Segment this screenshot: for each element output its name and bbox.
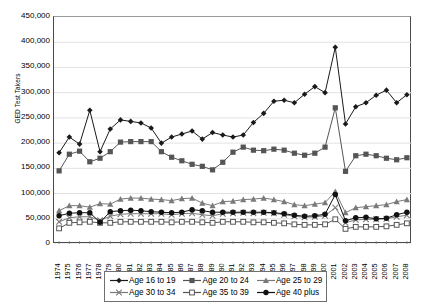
x-axis-tick-label: 2004 <box>361 263 368 279</box>
data-point-marker <box>148 209 153 214</box>
data-point-marker <box>200 164 205 169</box>
data-point-marker <box>87 108 93 114</box>
data-point-marker <box>138 120 144 126</box>
data-point-marker <box>149 139 154 144</box>
x-axis-tick-label: 2007 <box>391 263 398 279</box>
legend-row-top: Age 16 to 19Age 20 to 24Age 25 to 29 <box>109 274 322 286</box>
data-point-marker <box>179 210 184 215</box>
data-point-marker <box>312 213 317 218</box>
data-point-marker <box>190 290 195 295</box>
data-point-marker <box>353 224 358 229</box>
data-point-marker <box>404 210 409 215</box>
data-point-marker <box>67 211 72 216</box>
legend-label: Age 30 to 34 <box>129 288 175 297</box>
data-point-marker <box>128 119 134 125</box>
data-point-marker <box>394 222 399 227</box>
data-point-marker <box>384 156 389 161</box>
data-point-marker <box>220 219 225 224</box>
data-point-marker <box>322 145 327 150</box>
legend-label: Age 25 to 29 <box>276 276 322 285</box>
data-point-marker <box>394 157 399 162</box>
data-point-marker <box>210 220 215 225</box>
legend-item-1[interactable]: Age 16 to 19 <box>109 275 175 286</box>
y-axis-tick-label: 400,000 <box>4 37 50 45</box>
data-point-marker <box>138 139 143 144</box>
legend-item-5[interactable]: Age 35 to 39 <box>182 287 248 298</box>
data-point-marker <box>384 224 389 229</box>
legend-marker-icon <box>256 287 276 298</box>
data-point-marker <box>67 152 72 157</box>
data-point-marker <box>108 220 113 225</box>
data-point-marker <box>302 214 307 219</box>
legend-item-4[interactable]: Age 30 to 34 <box>109 287 175 298</box>
data-point-marker <box>179 158 184 163</box>
data-point-marker <box>210 210 215 215</box>
y-axis-tick-label: 50,000 <box>4 214 50 222</box>
data-point-marker <box>128 208 133 213</box>
y-axis-tick-label: 250,000 <box>4 113 50 121</box>
data-point-marker <box>230 134 236 140</box>
x-axis-tick-label: 2008 <box>401 263 408 279</box>
legend-item-6[interactable]: Age 40 plus <box>256 287 319 298</box>
data-point-marker <box>108 149 113 154</box>
plot-area <box>53 16 411 243</box>
data-point-marker <box>77 210 82 215</box>
x-axis-tick-label: 1977 <box>84 263 91 279</box>
data-point-marker <box>241 145 246 150</box>
data-point-marker <box>220 132 226 138</box>
data-point-marker <box>169 134 175 140</box>
data-point-marker <box>363 152 368 157</box>
data-point-marker <box>271 147 276 152</box>
data-point-marker <box>281 211 286 216</box>
data-point-marker <box>139 219 144 224</box>
data-point-marker <box>87 159 92 164</box>
data-point-marker <box>263 289 268 294</box>
data-point-marker <box>384 216 389 221</box>
legend-marker-icon <box>109 275 129 286</box>
y-axis-tick-label: 450,000 <box>4 12 50 20</box>
data-point-marker <box>364 224 369 229</box>
data-point-marker <box>189 162 194 167</box>
data-point-marker <box>56 208 62 214</box>
x-axis-tick-label: 1975 <box>64 263 71 279</box>
data-point-marker <box>251 148 256 153</box>
data-point-marker <box>87 210 92 215</box>
data-point-marker <box>169 155 174 160</box>
data-point-marker <box>312 222 317 227</box>
y-axis-tick-label: 200,000 <box>4 138 50 146</box>
legend-label: Age 16 to 19 <box>129 276 175 285</box>
data-point-marker <box>118 219 123 224</box>
data-point-marker <box>148 125 154 131</box>
data-point-marker <box>56 213 61 218</box>
data-point-marker <box>210 167 215 172</box>
x-axis-tick-label: 1976 <box>74 263 81 279</box>
legend-item-3[interactable]: Age 25 to 29 <box>256 275 322 286</box>
x-axis-tick-label: 2006 <box>381 263 388 279</box>
y-axis-tick-label: 300,000 <box>4 88 50 96</box>
data-point-marker <box>343 121 349 127</box>
data-point-marker <box>169 210 174 215</box>
data-point-marker <box>138 208 143 213</box>
legend-row-bottom: Age 30 to 34Age 35 to 39Age 40 plus <box>109 286 322 298</box>
data-point-marker <box>333 217 338 222</box>
legend-item-2[interactable]: Age 20 to 24 <box>182 275 248 286</box>
data-point-marker <box>302 153 307 158</box>
data-point-marker <box>149 219 154 224</box>
y-axis-tick-labels: 450,000400,000350,000300,000250,000200,0… <box>0 0 50 246</box>
series-canvas <box>54 17 412 244</box>
data-point-marker <box>353 104 359 110</box>
data-point-marker <box>374 224 379 229</box>
data-point-marker <box>363 215 368 220</box>
data-point-marker <box>230 150 235 155</box>
legend-marker-icon <box>182 275 202 286</box>
data-point-marker <box>322 212 327 217</box>
legend-marker-icon <box>182 287 202 298</box>
data-point-marker <box>220 160 225 165</box>
data-point-marker <box>332 44 338 50</box>
y-axis-tick-label: 150,000 <box>4 163 50 171</box>
x-axis-tick-label: 2005 <box>371 263 378 279</box>
data-point-marker <box>199 200 205 206</box>
data-point-marker <box>343 226 348 231</box>
data-point-marker <box>97 220 102 225</box>
data-point-marker <box>323 222 328 227</box>
